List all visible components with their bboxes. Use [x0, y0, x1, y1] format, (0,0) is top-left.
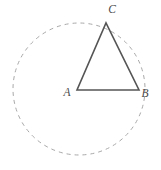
vertex-label-b: B	[141, 87, 148, 99]
vertex-label-c: C	[108, 3, 116, 15]
triangle-abc	[77, 23, 139, 90]
vertex-label-a: A	[62, 86, 71, 98]
geometry-figure: A B C	[0, 0, 161, 170]
geometry-canvas: A B C	[0, 0, 161, 170]
dashed-circle	[13, 23, 145, 155]
